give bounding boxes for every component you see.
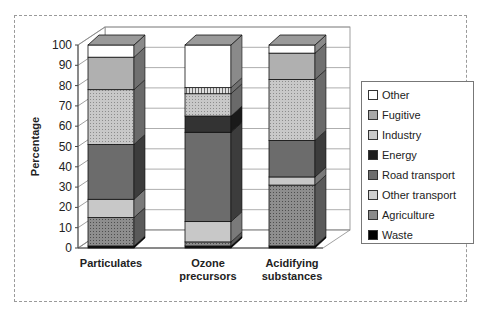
bar-segment [185,132,231,221]
y-tick-label: 100 [52,38,72,52]
bar-segment [269,140,315,177]
legend-swatch-icon [368,130,378,140]
bar-segment [88,90,134,145]
bar-segment [185,94,231,116]
legend-label: Agriculture [382,209,435,221]
bar-segment [88,199,134,217]
legend-item: Other [368,85,473,105]
y-tick-label: 70 [59,99,73,113]
legend-swatch-icon [368,190,378,200]
bar-segment [185,45,231,88]
bar-segment [185,242,231,246]
legend-label: Energy [382,149,417,161]
bar-segment [185,88,231,94]
y-tick-label: 90 [59,58,73,72]
bar-segment [185,116,231,132]
chart-legend: OtherFugitiveIndustryEnergyRoad transpor… [361,81,474,244]
x-category-label: substances [262,270,323,282]
x-category-label: Particulates [80,257,142,269]
legend-swatch-icon [368,150,378,160]
legend-label: Other transport [382,189,456,201]
y-tick-label: 40 [59,160,73,174]
legend-label: Other [382,89,410,101]
y-tick-label: 50 [59,140,73,154]
legend-label: Road transport [382,169,455,181]
chart-bars [88,35,326,248]
bar-segment [88,57,134,89]
legend-label: Industry [382,129,421,141]
y-axis-label: Percentage [29,117,41,176]
bar-segment [88,218,134,246]
legend-item: Energy [368,145,473,165]
bar-segment [269,80,315,141]
legend-label: Fugitive [382,109,421,121]
legend-item: Fugitive [368,105,473,125]
bar-segment [185,222,231,242]
bar-segment [269,185,315,246]
legend-swatch-icon [368,170,378,180]
x-category-label: Ozone [191,257,225,269]
y-tick-label: 20 [59,200,73,214]
y-tick-label: 60 [59,119,73,133]
legend-item: Industry [368,125,473,145]
y-tick-label: 10 [59,221,73,235]
y-tick-label: 80 [59,79,73,93]
bar-segment [88,45,134,57]
bar-segment [269,53,315,79]
legend-item: Road transport [368,165,473,185]
legend-swatch-icon [368,210,378,220]
bar-segment [269,177,315,185]
bar-segment [269,45,315,53]
legend-item: Other transport [368,185,473,205]
x-category-label: precursors [179,270,236,282]
legend-swatch-icon [368,90,378,100]
legend-swatch-icon [368,230,378,240]
x-category-label: Acidifying [265,257,318,269]
y-tick-label: 30 [59,180,73,194]
legend-item: Agriculture [368,205,473,225]
y-tick-label: 0 [65,241,72,255]
legend-item: Waste [368,225,473,245]
legend-label: Waste [382,229,413,241]
bar-segment [88,144,134,199]
legend-swatch-icon [368,110,378,120]
